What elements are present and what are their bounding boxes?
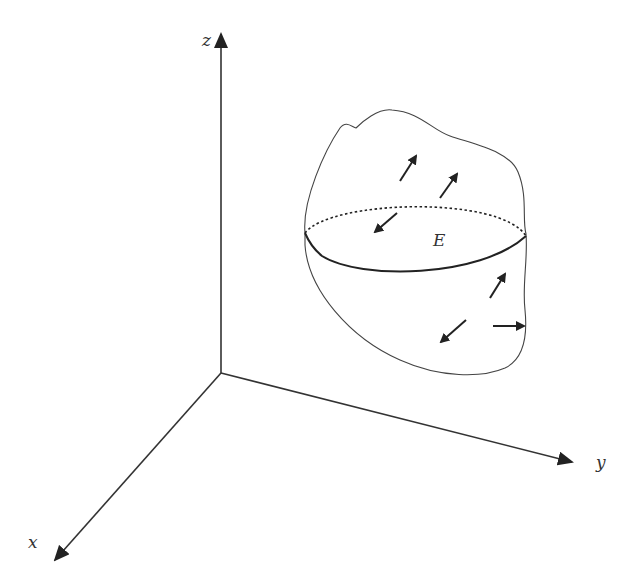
surface-outline	[305, 110, 527, 375]
normal-arrow-icon	[490, 274, 505, 298]
normal-vectors	[375, 156, 524, 342]
axes	[55, 34, 572, 560]
normal-arrow-icon	[400, 156, 416, 181]
x-axis-label: x	[28, 532, 38, 552]
normal-arrow-icon	[441, 320, 466, 342]
normal-arrow-icon	[375, 213, 397, 232]
diagram-canvas: z y x E	[0, 0, 639, 575]
normal-arrow-icon	[440, 174, 457, 198]
z-axis-label: z	[201, 30, 212, 50]
cross-section-front	[305, 233, 526, 271]
region-label: E	[432, 230, 446, 250]
x-axis	[55, 373, 221, 560]
y-axis	[221, 373, 572, 462]
cross-section-back	[305, 207, 526, 236]
y-axis-label: y	[595, 452, 606, 472]
